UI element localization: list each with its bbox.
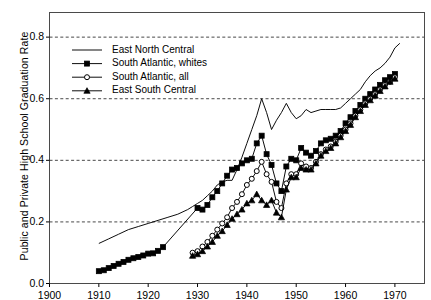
series-marker bbox=[131, 256, 136, 261]
series-marker bbox=[111, 263, 116, 268]
series-marker bbox=[299, 146, 304, 151]
chart-figure: Public and Private High School Graduatio… bbox=[0, 0, 431, 300]
series-marker bbox=[348, 115, 353, 120]
legend-entry-label: South Atlantic, whites bbox=[112, 57, 207, 68]
plot-frame bbox=[50, 13, 425, 284]
series-marker bbox=[96, 269, 101, 274]
series-marker bbox=[215, 189, 220, 194]
series-marker bbox=[210, 233, 215, 238]
series-marker bbox=[146, 251, 151, 256]
series-marker bbox=[249, 176, 254, 181]
series-marker bbox=[304, 150, 309, 155]
y-axis-tick-label: 0.8 bbox=[8, 30, 44, 42]
series-marker bbox=[264, 172, 269, 177]
series-marker bbox=[121, 259, 126, 264]
series-marker bbox=[126, 257, 131, 262]
legend-entry-label: East South Central bbox=[112, 84, 196, 95]
series-marker bbox=[274, 199, 279, 204]
legend-sample-marker bbox=[85, 75, 90, 80]
series-marker bbox=[269, 179, 274, 184]
legend-entry-label: South Atlantic, all bbox=[112, 71, 189, 82]
y-axis-tick-label: 0.4 bbox=[8, 153, 44, 165]
y-axis-tick-label: 0.0 bbox=[8, 277, 44, 289]
series-marker bbox=[239, 161, 244, 166]
series-marker bbox=[273, 210, 279, 216]
series-marker bbox=[230, 206, 235, 211]
chart-plot-area bbox=[0, 0, 431, 300]
series-marker bbox=[318, 141, 323, 146]
series-marker bbox=[116, 261, 121, 266]
series-marker bbox=[244, 158, 249, 163]
series-marker bbox=[309, 153, 314, 158]
y-axis-tick-label: 0.6 bbox=[8, 92, 44, 104]
series-marker bbox=[225, 173, 230, 178]
series-marker bbox=[279, 189, 284, 194]
legend-entry-label: East North Central bbox=[112, 44, 194, 55]
series-marker bbox=[249, 156, 254, 161]
series-marker bbox=[156, 248, 161, 253]
series-marker bbox=[254, 191, 260, 197]
series-marker bbox=[235, 166, 240, 171]
series-marker bbox=[195, 206, 200, 211]
series-marker bbox=[269, 162, 274, 167]
x-axis-tick-label: 1970 bbox=[365, 289, 425, 300]
series-marker bbox=[230, 167, 235, 172]
series-marker bbox=[274, 181, 279, 186]
series-marker bbox=[225, 215, 230, 220]
y-axis-tick-label: 0.2 bbox=[8, 215, 44, 227]
series-marker bbox=[151, 251, 156, 256]
series-marker bbox=[220, 221, 225, 226]
series-marker bbox=[294, 158, 299, 163]
series-marker bbox=[101, 268, 106, 273]
series-marker bbox=[210, 195, 215, 200]
legend-sample-marker bbox=[85, 61, 90, 66]
series-marker bbox=[220, 181, 225, 186]
series-marker bbox=[254, 141, 259, 146]
series-marker bbox=[239, 192, 244, 197]
series-marker bbox=[268, 197, 274, 203]
series-marker bbox=[323, 138, 328, 143]
series-marker bbox=[264, 152, 269, 157]
series-marker bbox=[141, 253, 146, 258]
series-marker bbox=[284, 164, 289, 169]
series-marker bbox=[289, 156, 294, 161]
series-marker bbox=[200, 207, 205, 212]
series-marker bbox=[313, 149, 318, 154]
series-marker bbox=[343, 121, 348, 126]
series-marker bbox=[259, 159, 264, 164]
series-marker bbox=[205, 202, 210, 207]
series-marker bbox=[328, 136, 333, 141]
series-marker bbox=[333, 133, 338, 138]
series-marker bbox=[160, 245, 165, 250]
series-marker bbox=[254, 169, 259, 174]
series-marker bbox=[235, 199, 240, 204]
series-marker bbox=[136, 255, 141, 260]
series-line bbox=[99, 74, 395, 271]
series-marker bbox=[259, 133, 264, 138]
series-marker bbox=[244, 182, 249, 187]
series-marker bbox=[215, 227, 220, 232]
series-marker bbox=[106, 266, 111, 271]
